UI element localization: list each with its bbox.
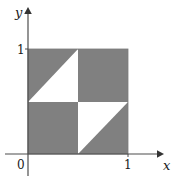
x-axis-label: x [163, 159, 170, 172]
y-axis-label: y [15, 6, 22, 19]
y-tick-label-one: 1 [17, 44, 25, 56]
arrow-up-icon [24, 7, 32, 14]
arrow-right-icon [157, 150, 164, 158]
shaded-regions [28, 49, 128, 154]
x-tick-label-one: 1 [124, 159, 132, 171]
unit-square-figure [0, 0, 178, 186]
shaded-triangle-lower-right [78, 102, 128, 154]
origin-label: 0 [17, 159, 25, 171]
shaded-triangle-upper-left [28, 49, 78, 102]
shaded-square-upper-right [78, 49, 128, 102]
figure-container: y x 1 1 0 [0, 0, 178, 186]
shaded-square-lower-left [28, 102, 78, 154]
